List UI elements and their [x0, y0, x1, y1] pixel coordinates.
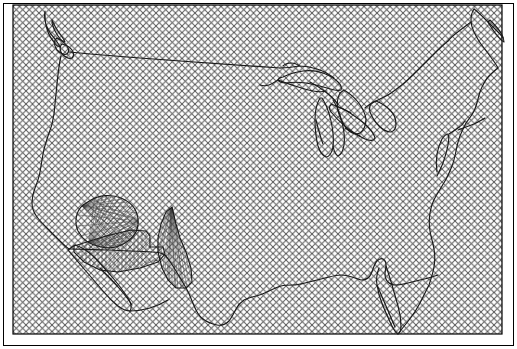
map-figure	[0, 0, 517, 349]
map-canvas	[0, 0, 517, 349]
